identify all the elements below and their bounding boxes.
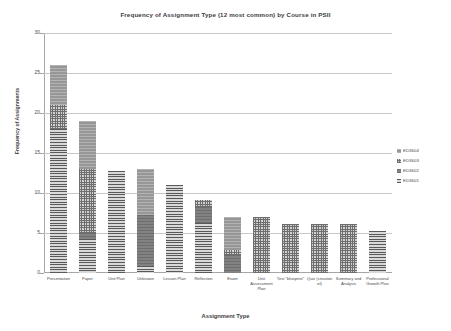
- chart-legend: ED3604ED3603ED3602ED3601: [397, 146, 451, 186]
- bar-column[interactable]: [79, 33, 97, 273]
- bar-column[interactable]: [108, 33, 126, 273]
- x-axis-label: Professional Growth Plan: [363, 276, 392, 286]
- legend-label: ED3604: [403, 149, 419, 153]
- bar-segment-ED3603[interactable]: [195, 200, 213, 207]
- y-tick-label: 5: [18, 230, 40, 235]
- y-tick-label: 10: [18, 190, 40, 195]
- bar-column[interactable]: [195, 33, 213, 273]
- legend-swatch-icon: [397, 179, 401, 183]
- x-axis-label: Test "blueprint": [276, 276, 305, 281]
- bar-stack: [282, 33, 300, 273]
- y-tick-label-wrap: 0: [10, 270, 40, 278]
- y-tick-label-wrap: 5: [10, 230, 40, 238]
- bar-segment-ED3603[interactable]: [253, 217, 271, 273]
- legend-swatch-icon: [397, 159, 401, 163]
- bar-column[interactable]: [224, 33, 242, 273]
- bar-segment-ED3601[interactable]: [195, 223, 213, 273]
- x-axis-label: Lesson Plan: [160, 276, 189, 281]
- legend-item[interactable]: ED3601: [397, 176, 451, 186]
- bar-stack: [253, 33, 271, 273]
- bar-stack: [50, 33, 68, 273]
- y-tick-label-wrap: 15: [10, 150, 40, 158]
- y-tick-label: 30: [18, 30, 40, 35]
- bar-segment-ED3604[interactable]: [50, 65, 68, 105]
- legend-label: ED3603: [403, 159, 419, 163]
- bar-stack: [79, 33, 97, 273]
- y-tick-label-wrap: 20: [10, 110, 40, 118]
- bar-segment-ED3601[interactable]: [166, 185, 184, 273]
- bar-column[interactable]: [50, 33, 68, 273]
- y-tick-label-wrap: 10: [10, 190, 40, 198]
- x-axis-label: Reflection: [189, 276, 218, 281]
- x-axis-labels: PresentationPaperUnit PlanUnknownLesson …: [44, 276, 392, 310]
- bar-segment-ED3601[interactable]: [369, 231, 387, 273]
- legend-item[interactable]: ED3603: [397, 156, 451, 166]
- bar-segment-ED3604[interactable]: [137, 169, 155, 215]
- bar-stack: [369, 33, 387, 273]
- legend-swatch-icon: [397, 149, 401, 153]
- bar-segment-ED3602[interactable]: [224, 255, 242, 273]
- bar-segment-ED3602[interactable]: [79, 233, 97, 239]
- x-axis-label: Unit Plan: [102, 276, 131, 281]
- bar-stack: [311, 33, 329, 273]
- x-axis-label: Paper: [73, 276, 102, 281]
- bar-segment-ED3604[interactable]: [79, 121, 97, 169]
- legend-label: ED3601: [403, 179, 419, 183]
- bar-segment-ED3603[interactable]: [224, 250, 242, 255]
- x-axis-label: Unknown: [131, 276, 160, 281]
- x-axis-label: Presentation: [44, 276, 73, 281]
- bar-segment-ED3603[interactable]: [50, 105, 68, 129]
- bar-stack: [166, 33, 184, 273]
- legend-swatch-icon: [397, 169, 401, 173]
- y-tick-label: 20: [18, 110, 40, 115]
- bar-column[interactable]: [137, 33, 155, 273]
- x-axis-title: Assignment Type: [0, 313, 451, 319]
- bar-column[interactable]: [340, 33, 358, 273]
- x-axis-label: Unit Assessment Plan: [247, 276, 276, 292]
- x-axis-label: Summary and Analysis: [334, 276, 363, 286]
- bar-column[interactable]: [369, 33, 387, 273]
- chart-container: Frequency of Assignment Type (12 most co…: [0, 0, 451, 331]
- y-tick-label-wrap: 30: [10, 30, 40, 38]
- x-axis-label: Quiz (creation of): [305, 276, 334, 286]
- bar-column[interactable]: [282, 33, 300, 273]
- legend-label: ED3602: [403, 169, 419, 173]
- bar-segment-ED3603[interactable]: [340, 224, 358, 273]
- bar-stack: [224, 33, 242, 273]
- y-tick-label: 15: [18, 150, 40, 155]
- bar-segment-ED3601[interactable]: [50, 129, 68, 273]
- bar-segment-ED3603[interactable]: [282, 224, 300, 273]
- y-tick-mark: [40, 273, 44, 274]
- bar-segment-ED3601[interactable]: [137, 266, 155, 273]
- legend-item[interactable]: ED3604: [397, 146, 451, 156]
- legend-item[interactable]: ED3602: [397, 166, 451, 176]
- bar-segment-ED3603[interactable]: [311, 224, 329, 273]
- bar-segment-ED3604[interactable]: [224, 217, 242, 250]
- bar-segment-ED3602[interactable]: [195, 207, 213, 223]
- bar-stack: [195, 33, 213, 273]
- bar-stack: [137, 33, 155, 273]
- y-tick-label: 25: [18, 70, 40, 75]
- chart-title: Frequency of Assignment Type (12 most co…: [0, 11, 451, 18]
- bar-column[interactable]: [166, 33, 184, 273]
- y-tick-label-wrap: 25: [10, 70, 40, 78]
- bar-column[interactable]: [311, 33, 329, 273]
- x-axis-label: Exam: [218, 276, 247, 281]
- y-tick-label: 0: [18, 270, 40, 275]
- bar-segment-ED3601[interactable]: [79, 239, 97, 273]
- bar-stack: [340, 33, 358, 273]
- bar-column[interactable]: [253, 33, 271, 273]
- bar-segment-ED3602[interactable]: [137, 215, 155, 265]
- bars-layer: [44, 33, 392, 273]
- bar-segment-ED3601[interactable]: [108, 171, 126, 273]
- bar-stack: [108, 33, 126, 273]
- bar-segment-ED3603[interactable]: [79, 169, 97, 233]
